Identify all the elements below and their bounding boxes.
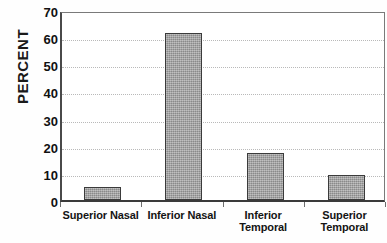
bar-series	[62, 13, 384, 200]
bar-slot	[306, 13, 387, 200]
x-tick-label-line: Superior Nasal	[60, 209, 141, 221]
bar[interactable]	[328, 175, 365, 200]
y-tick-label: 20	[32, 141, 58, 154]
x-tick-label: InferiorTemporal	[223, 209, 304, 233]
bar[interactable]	[165, 33, 202, 200]
y-tick-label: 30	[32, 114, 58, 127]
x-tick-label: SuperiorTemporal	[304, 209, 385, 233]
bar[interactable]	[247, 153, 284, 200]
y-tick-label: 40	[32, 87, 58, 100]
bar-slot	[143, 13, 224, 200]
y-tick-label: 10	[32, 168, 58, 181]
y-tick-label: 60	[32, 33, 58, 46]
y-tick-label: 0	[32, 196, 58, 209]
plot-area	[60, 12, 385, 202]
x-tick-label: Superior Nasal	[60, 209, 141, 221]
x-tick-label-line: Inferior Nasal	[141, 209, 222, 221]
x-tick-label: Inferior Nasal	[141, 209, 222, 221]
bar-chart: PERCENT 010203040506070 Superior NasalIn…	[0, 0, 387, 243]
x-tick-label-line: Superior	[304, 209, 385, 221]
x-tick-label-line: Temporal	[304, 221, 385, 233]
x-tick	[141, 202, 142, 207]
x-tick	[385, 202, 386, 207]
x-tick-label-line: Inferior	[223, 209, 304, 221]
bar[interactable]	[84, 187, 121, 200]
y-tick-label: 70	[32, 6, 58, 19]
x-tick	[223, 202, 224, 207]
x-tick	[304, 202, 305, 207]
y-axis-tick-labels: 010203040506070	[28, 0, 58, 243]
bar-slot	[62, 13, 143, 200]
y-tick-label: 50	[32, 60, 58, 73]
x-tick-label-line: Temporal	[223, 221, 304, 233]
bar-slot	[225, 13, 306, 200]
x-tick	[60, 202, 61, 207]
